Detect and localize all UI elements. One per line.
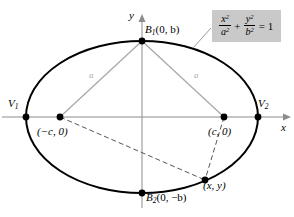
x-axis-label: x <box>281 122 286 133</box>
ellipse-diagram: x y B1(0, b) B2(0, −b) V1 V2 (−c, 0) (c,… <box>0 0 294 217</box>
point-label-b1: B1(0, b) <box>145 24 179 36</box>
point-right-focus-marker <box>221 114 228 121</box>
fraction-denominator-b: b2 <box>243 26 255 37</box>
fraction-denominator-a: a2 <box>219 26 231 37</box>
numerator-x-exponent: 2 <box>226 13 229 20</box>
fraction-y-over-b: y2 b2 <box>243 14 255 38</box>
point-b1-marker <box>139 38 146 45</box>
v1-subscript: 1 <box>15 102 19 111</box>
x-axis <box>2 114 291 121</box>
point-label-right-focus: (c, 0) <box>208 126 231 137</box>
fraction-x-over-a: x2 a2 <box>219 14 231 38</box>
b2-symbol: B <box>146 191 153 203</box>
equation-plus-sign: + <box>234 20 240 32</box>
v1-symbol: V <box>8 97 15 109</box>
b1-coords: (0, b) <box>155 23 179 35</box>
b1-symbol: B <box>145 23 152 35</box>
denominator-b-exponent: 2 <box>250 26 253 33</box>
point-label-xy: (x, y) <box>203 180 226 191</box>
callout-leader-line <box>193 28 211 48</box>
numerator-y-exponent: 2 <box>250 13 253 20</box>
point-b2-marker <box>139 190 146 197</box>
v2-subscript: 2 <box>265 102 269 111</box>
equation-callout-box: x2 a2 + y2 b2 = 1 <box>212 10 281 42</box>
fraction-numerator-y: y2 <box>244 14 256 26</box>
y-axis-label: y <box>129 10 134 21</box>
point-label-v2: V2 <box>258 98 268 110</box>
point-label-left-focus: (−c, 0) <box>37 126 68 137</box>
denominator-a-exponent: 2 <box>226 26 229 33</box>
fraction-numerator-x: x2 <box>219 14 231 26</box>
point-v1-marker <box>23 114 30 121</box>
point-left-focus-marker <box>57 114 64 121</box>
point-v2-marker <box>255 114 262 121</box>
segment-label-a-left: a <box>89 71 94 80</box>
v2-symbol: V <box>258 97 265 109</box>
b2-coords: (0, −b) <box>156 191 186 203</box>
equation-equals-one: = 1 <box>259 20 273 32</box>
segment-label-a-right: a <box>194 71 199 80</box>
point-label-b2: B2(0, −b) <box>146 192 187 204</box>
point-label-v1: V1 <box>8 98 18 110</box>
